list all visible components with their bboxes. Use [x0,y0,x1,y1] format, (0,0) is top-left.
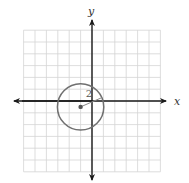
radius-segment [81,98,102,107]
y-axis-label: y [87,5,95,18]
center-point [78,105,82,109]
coordinate-plane: x y 2 [0,0,189,183]
x-axis-label: x [174,95,181,108]
radius-label: 2 [86,88,92,99]
